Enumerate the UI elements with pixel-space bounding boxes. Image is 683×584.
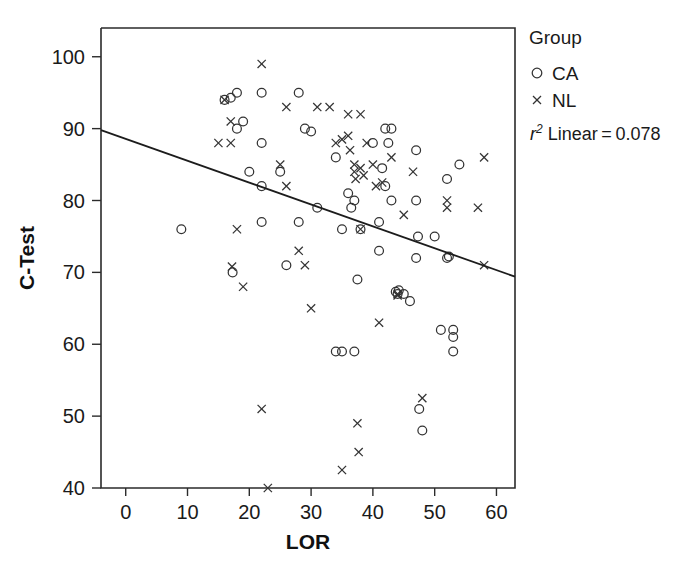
data-point-nl: [443, 196, 451, 204]
regression-line: [101, 130, 515, 277]
data-point-ca: [177, 225, 186, 234]
data-point-nl: [228, 263, 236, 271]
y-tick-label: 40: [63, 477, 85, 499]
data-point-ca: [412, 254, 421, 263]
x-tick-label: 20: [238, 501, 260, 523]
data-point-ca: [350, 347, 359, 356]
data-point-nl: [258, 60, 266, 68]
data-point-ca: [353, 275, 362, 284]
x-tick-label: 10: [176, 501, 198, 523]
series-ca-points: [177, 88, 464, 435]
legend-circle-icon: [532, 68, 542, 78]
data-point-nl: [313, 103, 321, 111]
data-point-ca: [443, 175, 452, 184]
data-point-ca: [338, 347, 347, 356]
data-point-ca: [233, 124, 242, 133]
data-point-ca: [294, 218, 303, 227]
y-axis-ticks: 405060708090100: [52, 46, 101, 499]
data-point-ca: [406, 297, 415, 306]
data-point-ca: [412, 146, 421, 155]
data-point-nl: [480, 153, 488, 161]
data-point-ca: [436, 325, 445, 334]
data-point-ca: [375, 246, 384, 255]
data-point-nl: [351, 175, 359, 183]
data-point-ca: [430, 232, 439, 241]
y-tick-label: 60: [63, 333, 85, 355]
data-point-nl: [356, 225, 364, 233]
data-point-nl: [344, 110, 352, 118]
data-point-nl: [353, 419, 361, 427]
data-point-nl: [307, 304, 315, 312]
x-tick-label: 40: [362, 501, 384, 523]
data-point-ca: [245, 167, 254, 176]
y-axis-title: C-Test: [15, 226, 38, 290]
data-point-nl: [338, 466, 346, 474]
data-point-nl: [214, 139, 222, 147]
data-point-nl: [233, 225, 241, 233]
data-point-nl: [360, 171, 368, 179]
data-point-ca: [384, 139, 393, 148]
data-point-nl: [227, 139, 235, 147]
data-point-ca: [412, 196, 421, 205]
data-point-nl: [282, 182, 290, 190]
data-point-nl: [227, 117, 235, 125]
data-point-ca: [338, 225, 347, 234]
data-point-ca: [282, 261, 291, 270]
legend-title: Group: [529, 27, 582, 48]
data-point-ca: [257, 218, 266, 227]
data-point-nl: [474, 204, 482, 212]
legend-cross-icon: [533, 96, 541, 104]
y-tick-label: 90: [63, 118, 85, 140]
data-point-nl: [356, 110, 364, 118]
data-point-nl: [443, 204, 451, 212]
series-nl-points: [214, 60, 488, 492]
data-point-nl: [387, 153, 395, 161]
data-point-nl: [355, 448, 363, 456]
data-point-nl: [363, 139, 371, 147]
data-point-nl: [301, 261, 309, 269]
x-axis-title: LOR: [286, 530, 330, 553]
r-squared-value: Linear = 0.078: [543, 124, 661, 144]
plot-canvas: 0102030405060 405060708090100 LOR C-Test…: [0, 0, 683, 584]
scatter-plot-figure: 0102030405060 405060708090100 LOR C-Test…: [0, 0, 683, 584]
data-point-nl: [400, 211, 408, 219]
data-point-ca: [257, 88, 266, 97]
data-point-nl: [282, 103, 290, 111]
x-tick-label: 60: [485, 501, 507, 523]
data-point-nl: [239, 283, 247, 291]
data-point-ca: [449, 347, 458, 356]
data-point-ca: [294, 88, 303, 97]
data-point-nl: [369, 160, 377, 168]
data-point-nl: [418, 394, 426, 402]
data-point-ca: [415, 405, 424, 414]
data-point-ca: [276, 167, 285, 176]
data-point-ca: [350, 196, 359, 205]
data-point-ca: [378, 164, 387, 173]
y-tick-label: 80: [63, 190, 85, 212]
data-point-ca: [455, 160, 464, 169]
data-point-ca: [233, 88, 242, 97]
data-point-nl: [346, 146, 354, 154]
data-point-ca: [387, 196, 396, 205]
r-squared-annotation: r2 Linear = 0.078: [530, 122, 661, 144]
data-point-nl: [375, 319, 383, 327]
data-point-ca: [239, 117, 248, 126]
x-tick-label: 30: [300, 501, 322, 523]
data-point-ca: [331, 153, 340, 162]
x-tick-label: 0: [120, 501, 131, 523]
data-point-ca: [414, 232, 423, 241]
y-tick-label: 70: [63, 261, 85, 283]
x-tick-label: 50: [424, 501, 446, 523]
x-axis-ticks: 0102030405060: [120, 488, 507, 523]
data-point-nl: [295, 247, 303, 255]
legend: Group CA NL r2 Linear = 0.078: [529, 27, 661, 144]
y-tick-label: 50: [63, 405, 85, 427]
data-point-nl: [258, 405, 266, 413]
data-point-ca: [418, 426, 427, 435]
data-point-nl: [409, 168, 417, 176]
data-point-ca: [257, 139, 266, 148]
data-point-ca: [375, 218, 384, 227]
legend-label-nl: NL: [552, 90, 576, 111]
data-point-ca: [387, 124, 396, 133]
y-tick-label: 100: [52, 46, 85, 68]
